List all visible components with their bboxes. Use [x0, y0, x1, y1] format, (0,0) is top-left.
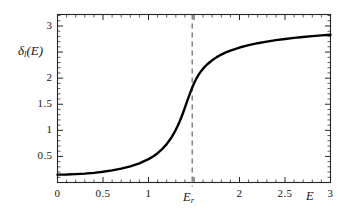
x-tick-label: 2: [237, 188, 243, 199]
x-tick-label: 3: [328, 188, 334, 199]
y-tick-label: 2: [47, 72, 53, 83]
x-tick-label: 0: [55, 188, 61, 199]
x-tick-label: 1: [146, 188, 152, 199]
y-label-argument: (E): [26, 43, 43, 58]
x-axis-label: E: [306, 190, 314, 203]
figure-container: 00.5122.530.511.523 δl(E) E Er: [0, 0, 344, 216]
plot-frame: [58, 15, 331, 183]
data-curve-group: [58, 35, 331, 175]
x-tick-label: 2.5: [278, 188, 293, 199]
y-tick-label: 1: [47, 124, 53, 135]
y-tick-label: 3: [47, 20, 53, 31]
series-line-0: [58, 35, 331, 175]
x-tick-label: 0.5: [96, 188, 111, 199]
y-tick-label: 1.5: [38, 98, 53, 109]
resonance-annotation-label: Er: [183, 191, 194, 204]
plot-frame-group: [58, 15, 331, 183]
axis-ticks-group: [58, 15, 331, 183]
resonance-symbol: E: [183, 190, 191, 204]
y-axis-label: δl(E): [18, 44, 43, 58]
resonance-subscript: r: [191, 195, 194, 205]
y-tick-label: 0.5: [38, 150, 53, 161]
